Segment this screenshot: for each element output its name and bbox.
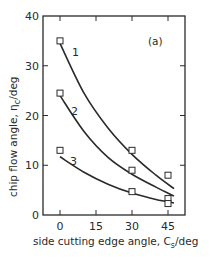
curve-label-1: 1 bbox=[72, 46, 79, 59]
x-tick-label: 45 bbox=[161, 220, 175, 233]
curve-label-2: 2 bbox=[71, 105, 78, 118]
curve-labels: 123 bbox=[70, 46, 79, 168]
data-point-square bbox=[165, 172, 171, 178]
curve-label-3: 3 bbox=[70, 155, 77, 168]
x-tick-label: 0 bbox=[57, 220, 64, 233]
y-tick-label: 20 bbox=[25, 110, 39, 123]
y-tick-label: 40 bbox=[25, 10, 39, 23]
data-point-square bbox=[165, 201, 171, 207]
fit-curves bbox=[60, 43, 174, 203]
data-points bbox=[57, 38, 171, 207]
plot-frame bbox=[43, 16, 185, 215]
x-tick-label: 30 bbox=[125, 220, 139, 233]
data-point-square bbox=[129, 189, 135, 195]
data-point-square bbox=[57, 147, 63, 153]
chart: 0153045010203040 (a) side cutting edge a… bbox=[0, 0, 220, 262]
x-tick-label: 15 bbox=[89, 220, 103, 233]
svg-text:chip flow angle, ηc/deg: chip flow angle, ηc/deg bbox=[7, 76, 22, 197]
y-axis-label: chip flow angle, ηc/deg bbox=[7, 76, 22, 197]
svg-text:side cutting edge angle, Cs/de: side cutting edge angle, Cs/deg bbox=[33, 235, 198, 250]
y-tick-label: 0 bbox=[32, 209, 39, 222]
data-point-square bbox=[57, 90, 63, 96]
panel-label: (a) bbox=[148, 35, 163, 47]
y-tick-label: 30 bbox=[25, 60, 39, 73]
data-point-square bbox=[129, 147, 135, 153]
y-tick-label: 10 bbox=[25, 159, 39, 172]
data-point-square bbox=[129, 167, 135, 173]
data-point-square bbox=[57, 38, 63, 44]
x-axis-label: side cutting edge angle, Cs/deg bbox=[33, 235, 198, 250]
